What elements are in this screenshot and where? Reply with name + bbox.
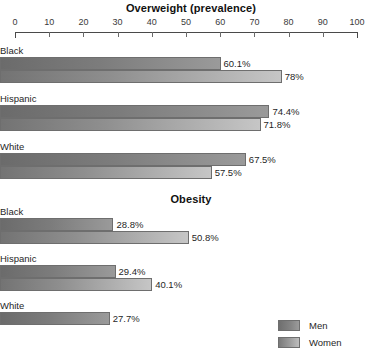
bar-group: Hispanic29.4%40.1% [0,253,374,291]
bar-value-label: 71.8% [261,118,291,131]
bar-row: 74.4% [0,105,374,118]
legend: MenWomen [278,317,366,351]
bar-row: 28.8% [0,218,374,231]
overweight-chart: Overweight (prevalence) 0102030405060708… [0,2,374,179]
x-axis-tick-label: 0 [12,17,17,27]
page-title-obesity: Obesity [0,193,374,205]
bar-row: 40.1% [0,278,374,291]
x-axis-tick-label: 20 [78,17,88,27]
bar-group: Hispanic74.4%71.8% [0,93,374,131]
x-axis-tick [323,32,324,37]
bar-value-label: 27.7% [110,312,140,325]
bar-value-label: 60.1% [221,57,251,70]
x-axis-tick-label: 100 [349,17,364,27]
x-axis: 0102030405060708090100 [0,17,374,43]
x-axis-tick [49,32,50,37]
x-axis-tick-label: 50 [181,17,191,27]
x-axis-tick [289,32,290,37]
category-label: White [0,300,374,312]
bar-men [0,153,246,166]
legend-swatch-men [278,320,300,331]
bar-men [0,312,110,325]
bar-group: Black28.8%50.8% [0,206,374,244]
bar-women [0,118,261,131]
bar-value-label: 74.4% [269,105,299,118]
category-label: Hispanic [0,253,374,265]
bar-value-label: 40.1% [152,278,182,291]
page-title-overweight: Overweight (prevalence) [0,2,374,14]
category-label: Hispanic [0,93,374,105]
bar-row: 50.8% [0,231,374,244]
x-axis-tick-labels: 0102030405060708090100 [0,17,374,30]
legend-item: Men [278,317,366,334]
bar-row: 60.1% [0,57,374,70]
legend-item: Women [278,334,366,351]
category-label: Black [0,45,374,57]
x-axis-tick [357,32,358,38]
bar-women [0,231,189,244]
overweight-plot-area: Black60.1%78%Hispanic74.4%71.8%White67.5… [0,45,374,179]
x-axis-tick [152,32,153,37]
legend-label: Men [309,320,327,331]
bar-group: White67.5%57.5% [0,141,374,179]
bar-row: 71.8% [0,118,374,131]
x-axis-tick-label: 70 [249,17,259,27]
x-axis-tick-label: 80 [284,17,294,27]
x-axis-tick-label: 90 [318,17,328,27]
x-axis-tick-label: 60 [215,17,225,27]
x-axis-tick [15,32,16,38]
bar-men [0,218,113,231]
bar-value-label: 67.5% [246,153,276,166]
category-label: Black [0,206,374,218]
category-label: White [0,141,374,153]
bar-women [0,70,282,83]
x-axis-tick [220,32,221,37]
bar-value-label: 50.8% [189,231,219,244]
x-axis-tick [118,32,119,37]
bar-row: 57.5% [0,166,374,179]
bar-value-label: 28.8% [113,218,143,231]
x-axis-tick [83,32,84,37]
bar-men [0,57,221,70]
bar-value-label: 57.5% [212,166,242,179]
bar-value-label: 78% [282,70,304,83]
bar-row: 78% [0,70,374,83]
bar-women [0,166,212,179]
bar-women [0,278,152,291]
legend-label: Women [309,337,342,348]
x-axis-tick-label: 30 [113,17,123,27]
bar-row: 67.5% [0,153,374,166]
section-spacer [0,179,374,193]
x-axis-tick-label: 40 [147,17,157,27]
x-axis-tick [254,32,255,37]
x-axis-tick [186,32,187,37]
bar-row: 29.4% [0,265,374,278]
bar-value-label: 29.4% [116,265,146,278]
x-axis-tick-label: 10 [44,17,54,27]
bar-men [0,105,269,118]
bar-group: Black60.1%78% [0,45,374,83]
legend-swatch-women [278,337,300,348]
bar-men [0,265,116,278]
